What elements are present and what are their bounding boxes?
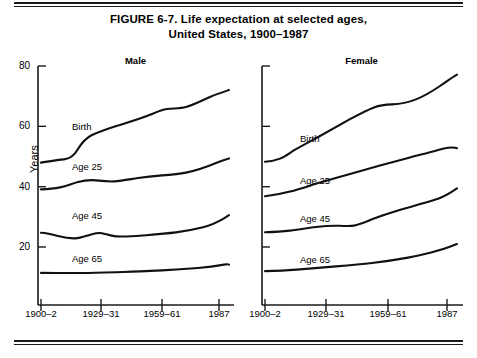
x-tick-label-1987-female: 1987 [417, 308, 477, 319]
top-rule-thick [14, 2, 463, 4]
label-female-age25: Age 25 [300, 175, 330, 186]
panel-female: Female [258, 55, 473, 320]
curve-male-age25 [41, 158, 229, 189]
y-tick-label-80: 80 [8, 60, 30, 71]
curve-female-age65 [265, 244, 457, 271]
label-female-age65: Age 65 [300, 254, 330, 265]
curve-female-age45 [265, 188, 457, 232]
curve-male-birth [41, 90, 229, 163]
curve-female-age25 [265, 147, 457, 196]
bottom-rule-thin [14, 344, 463, 345]
plot-area-male [34, 55, 249, 320]
panel-male: Male 80 60 40 20 Years [34, 55, 249, 320]
plot-area-female [258, 55, 473, 320]
x-tick-label-1959-female: 1959–61 [358, 308, 418, 319]
x-tick-label-1959-male: 1959–61 [132, 308, 192, 319]
curve-female-birth [265, 75, 457, 162]
y-tick-label-60: 60 [8, 120, 30, 131]
label-female-age45: Age 45 [300, 213, 330, 224]
x-tick-label-1900-male: 1900–2 [11, 308, 71, 319]
top-rule-thin [14, 6, 463, 7]
curve-male-age65 [41, 264, 229, 273]
y-tick-label-40: 40 [8, 181, 30, 192]
label-male-age65: Age 65 [72, 253, 102, 264]
x-tick-label-1900-female: 1900–2 [235, 308, 295, 319]
bottom-rule-thick [14, 340, 463, 342]
x-tick-label-1929-female: 1929–31 [296, 308, 356, 319]
label-male-age25: Age 25 [72, 161, 102, 172]
label-male-age45: Age 45 [72, 210, 102, 221]
x-tick-label-1929-male: 1929–31 [71, 308, 131, 319]
figure-title-line1: FIGURE 6-7. Life expectation at selected… [110, 13, 367, 25]
figure-title-line2: United States, 1900–1987 [0, 27, 477, 42]
curve-male-age45 [41, 215, 229, 238]
figure-title: FIGURE 6-7. Life expectation at selected… [0, 12, 477, 42]
y-tick-label-20: 20 [8, 241, 30, 252]
figure-page: FIGURE 6-7. Life expectation at selected… [0, 0, 477, 358]
label-female-birth: Birth [300, 133, 320, 144]
label-male-birth: Birth [72, 121, 92, 132]
